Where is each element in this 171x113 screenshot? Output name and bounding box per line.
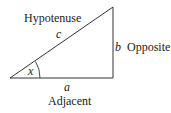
triangle-diagram: Hypotenuse c b Opposite x a Adjacent [0,0,171,113]
angle-arc [36,62,41,79]
hypotenuse-label: Hypotenuse [24,11,81,25]
opposite-label: Opposite [127,40,170,54]
angle-variable: x [27,64,34,78]
opposite-variable: b [115,40,121,54]
adjacent-label: Adjacent [48,94,92,108]
adjacent-variable: a [64,80,70,94]
hypotenuse-variable: c [56,27,62,41]
